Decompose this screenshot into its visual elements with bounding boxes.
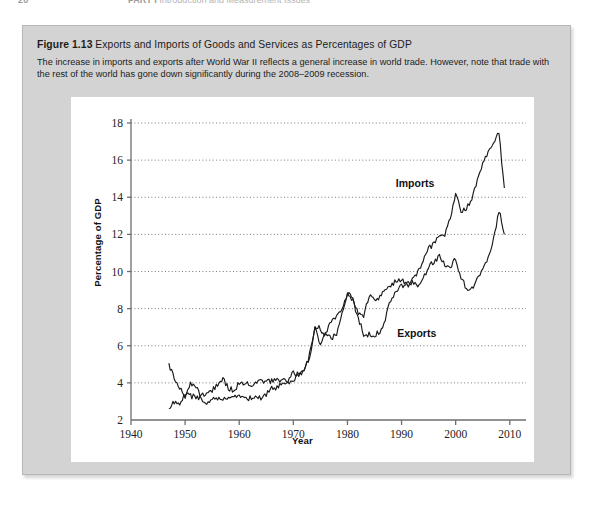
figure-title-line: Figure 1.13 Exports and Imports of Goods… — [37, 38, 557, 52]
figure-box: Figure 1.13 Exports and Imports of Goods… — [22, 25, 571, 475]
series-annotation-imports: Imports — [396, 177, 435, 189]
y-tick-label: 18 — [112, 117, 124, 129]
figure-label: Figure 1.13 — [37, 39, 92, 50]
page-root: 20 PART I Introduction and Measurement I… — [0, 0, 594, 519]
y-axis-title: Percentage of GDP — [92, 183, 103, 303]
page-folio: 20 — [18, 0, 28, 5]
y-tick-label: 2 — [117, 414, 123, 426]
running-head-part-label: PART I — [128, 0, 157, 5]
figure-title-text: Exports and Imports of Goods and Service… — [95, 39, 412, 50]
running-head: 20 PART I Introduction and Measurement I… — [0, 0, 594, 14]
series-annotation-exports: Exports — [397, 327, 436, 339]
series-line-imports — [169, 133, 504, 408]
y-tick-label: 4 — [117, 377, 123, 389]
running-head-title: PART I Introduction and Measurement Issu… — [128, 0, 310, 5]
y-tick-label: 14 — [112, 191, 124, 203]
x-axis-title: Year — [71, 435, 534, 446]
series-line-exports — [169, 212, 504, 398]
line-chart: 2468101214161819401950196019701980199020… — [71, 97, 534, 462]
figure-caption: Figure 1.13 Exports and Imports of Goods… — [37, 38, 557, 81]
running-head-part-title: Introduction and Measurement Issues — [159, 0, 310, 5]
chart-panel: 2468101214161819401950196019701980199020… — [71, 97, 534, 462]
y-tick-label: 16 — [112, 154, 124, 166]
y-tick-label: 10 — [112, 266, 124, 278]
y-tick-label: 6 — [117, 340, 123, 352]
figure-description: The increase in imports and exports afte… — [37, 56, 553, 81]
y-tick-label: 12 — [112, 228, 124, 240]
y-tick-label: 8 — [117, 303, 123, 315]
